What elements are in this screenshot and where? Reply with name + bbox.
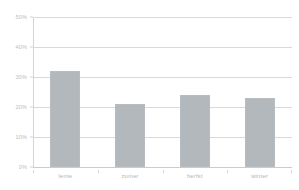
x-axis-tick <box>33 170 34 173</box>
x-axis-tick-label: zomer <box>121 173 138 179</box>
x-axis-tick-label: lente <box>58 173 72 179</box>
x-axis-tick-label: herfst <box>187 173 203 179</box>
y-axis-tick <box>30 17 33 18</box>
plot-area <box>33 17 292 167</box>
y-axis-tick-label: 40% <box>15 44 27 50</box>
bar[interactable] <box>115 104 145 167</box>
gridline <box>33 167 292 168</box>
x-axis-tick <box>98 170 99 173</box>
y-axis-labels: 0%10%20%30%40%50% <box>0 17 31 167</box>
y-axis-tick-label: 10% <box>15 134 27 140</box>
x-axis-tick <box>291 170 292 173</box>
y-axis-tick-label: 20% <box>15 104 27 110</box>
y-axis-tick <box>30 167 33 168</box>
y-axis-tick-label: 30% <box>15 74 27 80</box>
y-axis-tick-label: 0% <box>19 164 27 170</box>
bar[interactable] <box>50 71 80 167</box>
bars-layer <box>33 17 292 167</box>
y-axis-tick <box>30 137 33 138</box>
y-axis-tick <box>30 47 33 48</box>
y-axis-tick <box>30 107 33 108</box>
bar[interactable] <box>245 98 275 167</box>
x-axis-tick <box>227 170 228 173</box>
x-axis-tick-label: winter <box>251 173 268 179</box>
y-axis-tick <box>30 77 33 78</box>
x-axis-labels: lentezomerherfstwinter <box>33 170 292 186</box>
y-axis-tick-label: 50% <box>15 14 27 20</box>
bar[interactable] <box>180 95 210 167</box>
x-axis-tick <box>163 170 164 173</box>
bar-chart: 0%10%20%30%40%50% lentezomerherfstwinter <box>0 0 299 190</box>
